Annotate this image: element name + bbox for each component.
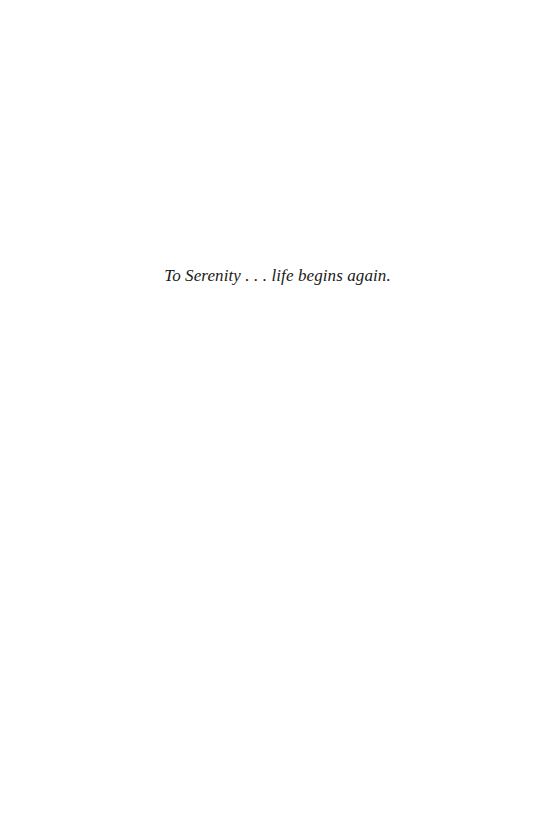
- book-page: To Serenity . . . life begins again.: [0, 0, 555, 831]
- dedication-text: To Serenity . . . life begins again.: [0, 266, 555, 286]
